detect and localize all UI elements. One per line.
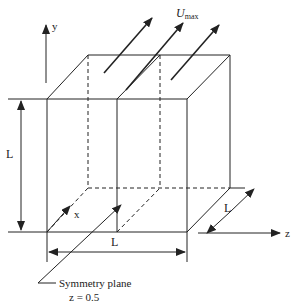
x-axis-label: x bbox=[74, 208, 80, 220]
width-dim-label: L bbox=[111, 235, 118, 249]
x-axis-arrow bbox=[47, 206, 70, 232]
velocity-label: Umax bbox=[176, 6, 198, 21]
depth-dim-arrow-up bbox=[230, 189, 254, 212]
z-axis-label: z bbox=[285, 227, 290, 239]
front-face bbox=[8, 99, 187, 262]
y-axis-label: y bbox=[52, 20, 58, 32]
depth-dim-arrow-down bbox=[207, 212, 230, 233]
hidden-edges bbox=[47, 55, 230, 232]
depth-dim-label: L bbox=[224, 201, 231, 215]
symmetry-leader-arrow bbox=[38, 205, 121, 283]
cavity-diagram: y x z Umax L L L Symmetry plane z = 0.5 bbox=[0, 0, 296, 305]
velocity-arrow-2 bbox=[126, 23, 183, 90]
top-face bbox=[47, 55, 230, 232]
velocity-arrow-1 bbox=[104, 18, 152, 73]
height-dim-label: L bbox=[6, 147, 13, 161]
symmetry-plane-label: Symmetry plane bbox=[59, 277, 132, 289]
velocity-arrow-3 bbox=[171, 25, 219, 80]
symmetry-plane-value: z = 0.5 bbox=[69, 291, 100, 303]
